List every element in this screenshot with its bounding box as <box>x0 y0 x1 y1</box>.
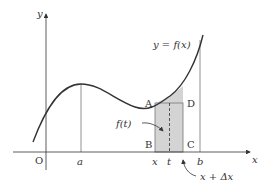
point-label-b: B <box>145 139 152 150</box>
x-axis-label: x <box>252 154 258 165</box>
point-label-a: A <box>144 98 153 109</box>
point-label-d: D <box>187 98 195 109</box>
tick-label-b: b <box>197 156 203 167</box>
ft-label: f(t) <box>115 118 132 129</box>
tick-label-a: a <box>77 156 83 167</box>
point-label-c: C <box>187 139 195 150</box>
tick-label-x: x <box>152 156 158 167</box>
x-plus-dx-label: x + Δx <box>200 171 234 182</box>
x-plus-dx-arrow <box>183 160 196 176</box>
tick-label-t: t <box>167 156 172 167</box>
curve-label: y = f(x) <box>152 39 191 50</box>
y-axis-label: y <box>36 8 43 19</box>
origin-label: O <box>35 155 43 166</box>
diagram-canvas: y x O y = f(x) a x t b A B C D f(t) x + … <box>0 0 263 191</box>
